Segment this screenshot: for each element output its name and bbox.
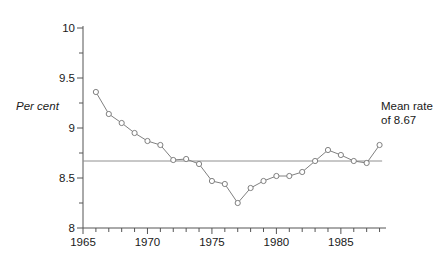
data-point xyxy=(184,156,189,161)
y-tick-label: 10 xyxy=(31,22,75,34)
mean-rate-annotation: Mean rate of 8.67 xyxy=(381,100,433,127)
x-tick-label: 1980 xyxy=(264,236,290,248)
mean-rate-annotation-line2: of 8.67 xyxy=(381,114,433,128)
data-point xyxy=(106,111,111,116)
y-tick-label: 9.5 xyxy=(31,72,75,84)
data-point xyxy=(158,142,163,147)
data-point xyxy=(287,173,292,178)
data-point xyxy=(274,173,279,178)
data-point xyxy=(132,130,137,135)
data-point xyxy=(145,138,150,143)
data-line xyxy=(96,92,380,203)
data-point xyxy=(119,120,124,125)
x-tick-label: 1970 xyxy=(135,236,161,248)
data-point xyxy=(338,152,343,157)
y-axis-ticks xyxy=(77,28,83,228)
data-point xyxy=(248,185,253,190)
x-tick-label: 1965 xyxy=(70,236,96,248)
y-tick-label: 8 xyxy=(31,222,75,234)
data-point xyxy=(364,160,369,165)
y-axis-title: Per cent xyxy=(16,100,59,112)
data-point xyxy=(222,181,227,186)
data-point xyxy=(351,158,356,163)
mean-rate-annotation-line1: Mean rate xyxy=(381,100,433,114)
data-point xyxy=(325,147,330,152)
data-point xyxy=(377,142,382,147)
data-point xyxy=(196,161,201,166)
data-point xyxy=(312,158,317,163)
x-tick-label: 1985 xyxy=(328,236,354,248)
x-tick-label: 1975 xyxy=(199,236,225,248)
data-point xyxy=(300,169,305,174)
x-axis-ticks xyxy=(83,228,380,234)
data-point xyxy=(209,178,214,183)
data-point xyxy=(171,157,176,162)
data-point xyxy=(93,89,98,94)
data-markers xyxy=(93,89,382,205)
data-point xyxy=(235,200,240,205)
y-tick-label: 8.5 xyxy=(31,172,75,184)
chart-container: Per cent 88.599.510 19651970197519801985… xyxy=(0,0,448,278)
y-tick-label: 9 xyxy=(31,122,75,134)
data-point xyxy=(261,178,266,183)
